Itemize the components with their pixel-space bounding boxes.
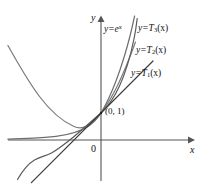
x-axis-label: x <box>190 145 194 155</box>
point-annotation-0-1: (0, 1) <box>105 107 125 116</box>
curve-label-t3-arg: (x) <box>157 23 168 33</box>
point-marker-group <box>100 112 102 114</box>
curve-t3 <box>18 19 138 180</box>
origin-label: 0 <box>91 144 96 154</box>
point-0-1-marker <box>100 112 102 114</box>
curve-label-t1: y=T1(x) <box>131 69 161 79</box>
curve-t1 <box>31 61 153 183</box>
y-axis-arrowhead <box>98 16 105 23</box>
taylor-polynomial-figure: y=ex y=T3(x) y=T2(x) y=T1(x) y x 0 (0, 1… <box>0 0 209 188</box>
x-axis-arrowhead <box>188 136 195 143</box>
curve-label-t2: y=T2(x) <box>136 46 166 56</box>
axes-group <box>8 16 195 182</box>
curve-label-t3: y=T3(x) <box>138 24 168 34</box>
curve-label-exp-exponent: x <box>119 23 122 30</box>
curve-label-t1-arg: (x) <box>150 68 161 78</box>
curves-group <box>8 16 153 183</box>
curve-label-t2-arg: (x) <box>155 45 166 55</box>
y-axis-label: y <box>91 13 95 23</box>
curve-label-exp: y=ex <box>104 24 122 34</box>
